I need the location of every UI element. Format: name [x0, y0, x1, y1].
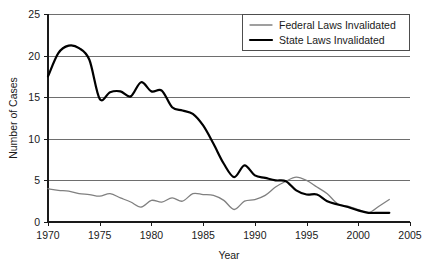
legend-label-federal: Federal Laws Invalidated [279, 19, 396, 31]
x-tick-label-2000: 2000 [347, 229, 371, 241]
x-tick-label-1995: 1995 [295, 229, 319, 241]
x-tick-label-1975: 1975 [88, 229, 112, 241]
y-tick-label-0: 0 [34, 216, 40, 228]
x-tick-label-1970: 1970 [36, 229, 60, 241]
y-tick-label-25: 25 [28, 8, 40, 20]
x-axis-title: Year [218, 249, 240, 261]
y-tick-label-20: 20 [28, 50, 40, 62]
x-tick-label-1985: 1985 [191, 229, 215, 241]
y-tick-label-15: 15 [28, 91, 40, 103]
y-tick-label-5: 5 [34, 174, 40, 186]
legend-label-state: State Laws Invalidated [279, 34, 385, 46]
x-tick-label-2005: 2005 [398, 229, 422, 241]
legend: Federal Laws Invalidated State Laws Inva… [242, 14, 409, 50]
x-tick-label-1990: 1990 [243, 229, 267, 241]
line-chart: 0510152025 19701975198019851990199520002… [0, 0, 429, 268]
x-tick-label-1980: 1980 [140, 229, 164, 241]
y-axis-title: Number of Cases [7, 77, 19, 159]
chart-container: 0510152025 19701975198019851990199520002… [0, 0, 429, 268]
y-tick-label-10: 10 [28, 133, 40, 145]
